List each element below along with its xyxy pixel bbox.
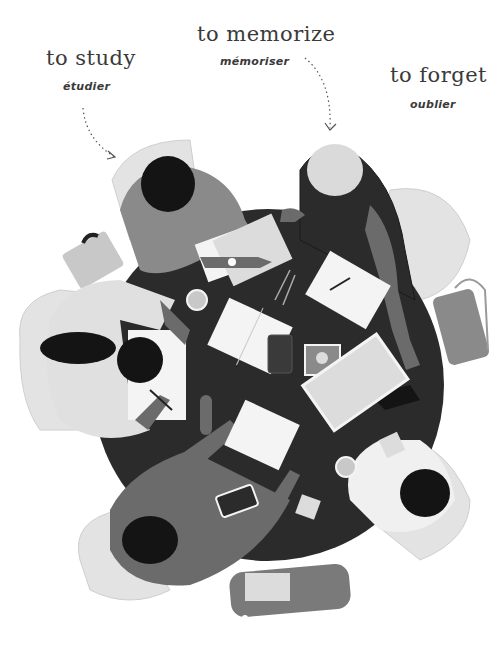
person-left: [40, 280, 190, 438]
person-top-left: [120, 156, 292, 286]
pencil-case-bottom: [228, 563, 351, 621]
dotted-arrow-study: [83, 108, 115, 157]
study-group-illustration: [0, 0, 504, 651]
arrow-head-study: [107, 151, 115, 159]
dotted-arrow-memorize: [305, 58, 330, 128]
